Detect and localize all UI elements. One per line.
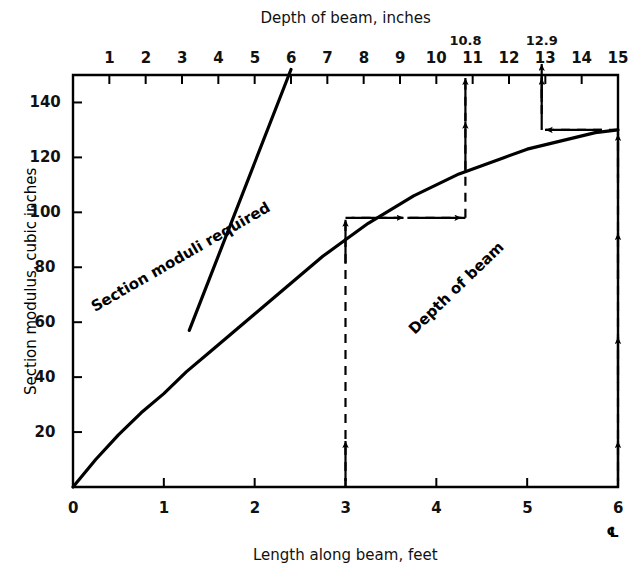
top-tick-label-10: 10 bbox=[426, 49, 447, 67]
bottom-axis-title: Length along beam, feet bbox=[253, 546, 438, 564]
top-tick-label-3: 3 bbox=[177, 49, 187, 67]
y-tick-label-60: 60 bbox=[35, 313, 56, 331]
top-tick-label-11: 11 bbox=[462, 49, 483, 67]
top-tick-label-6: 6 bbox=[286, 49, 296, 67]
bottom-tick-label-5: 5 bbox=[522, 499, 532, 517]
bottom-tick-label-1: 1 bbox=[159, 499, 169, 517]
top-tick-label-9: 9 bbox=[395, 49, 405, 67]
callout-depth-12-9: 12.9 bbox=[526, 33, 558, 48]
top-tick-label-14: 14 bbox=[571, 49, 592, 67]
bottom-tick-label-4: 4 bbox=[431, 499, 441, 517]
y-tick-label-140: 140 bbox=[30, 93, 61, 111]
top-tick-label-2: 2 bbox=[141, 49, 151, 67]
top-tick-label-1: 1 bbox=[104, 49, 114, 67]
top-tick-label-4: 4 bbox=[213, 49, 223, 67]
top-tick-label-5: 5 bbox=[250, 49, 260, 67]
top-tick-label-8: 8 bbox=[359, 49, 369, 67]
bottom-tick-label-3: 3 bbox=[341, 499, 351, 517]
top-axis-title: Depth of beam, inches bbox=[261, 9, 431, 27]
top-tick-label-13: 13 bbox=[535, 49, 556, 67]
y-tick-label-20: 20 bbox=[35, 423, 56, 441]
y-tick-label-120: 120 bbox=[30, 148, 61, 166]
top-tick-label-15: 15 bbox=[608, 49, 629, 67]
chart-canvas bbox=[0, 0, 631, 583]
beam-design-chart: Depth of beam, inches Length along beam,… bbox=[0, 0, 631, 583]
bottom-tick-label-0: 0 bbox=[68, 499, 78, 517]
top-tick-label-7: 7 bbox=[322, 49, 332, 67]
bottom-tick-label-2: 2 bbox=[250, 499, 260, 517]
y-tick-label-80: 80 bbox=[35, 258, 56, 276]
centerline-symbol: ℄ bbox=[607, 524, 620, 540]
y-tick-label-100: 100 bbox=[30, 203, 61, 221]
callout-depth-10-8: 10.8 bbox=[449, 33, 481, 48]
top-tick-label-12: 12 bbox=[499, 49, 520, 67]
bottom-tick-label-6: 6 bbox=[613, 499, 623, 517]
left-axis-title: Section modulus, cubic inches bbox=[22, 167, 40, 394]
y-tick-label-40: 40 bbox=[35, 368, 56, 386]
